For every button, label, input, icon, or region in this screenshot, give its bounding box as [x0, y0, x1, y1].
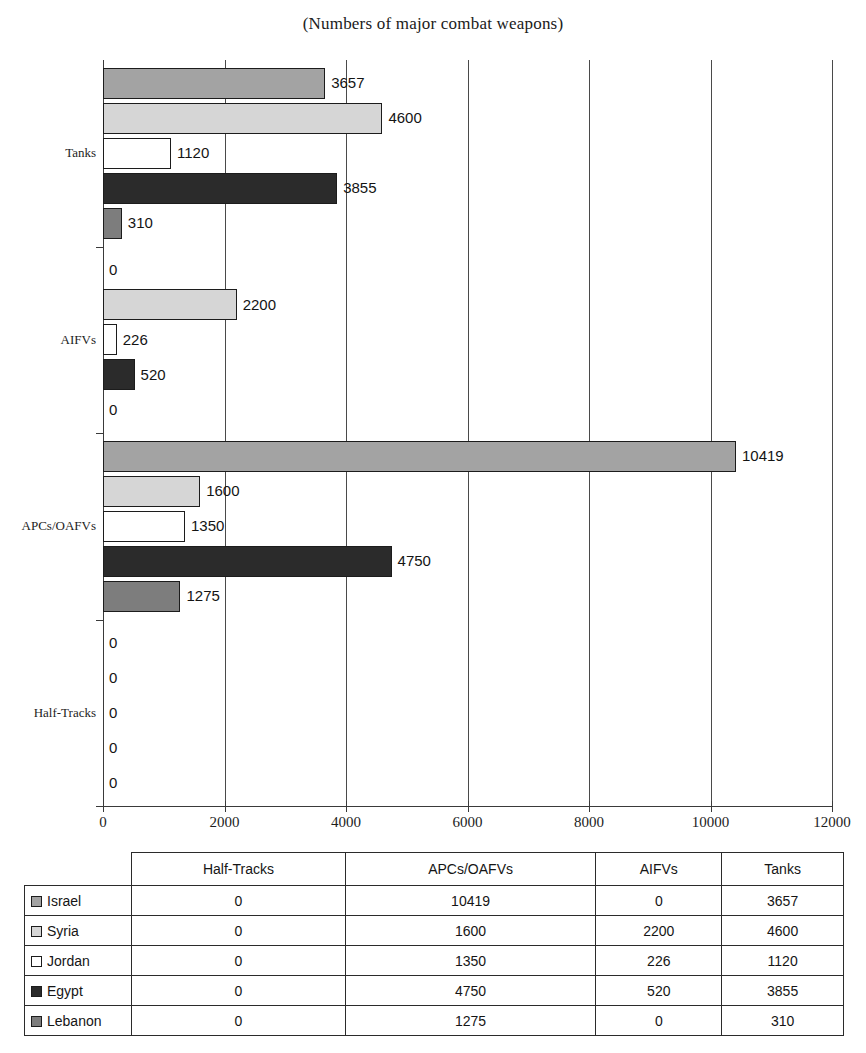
bar-value-label: 2200: [243, 297, 276, 312]
table-cell: 1350: [345, 946, 596, 976]
bar-value-label: 4600: [388, 110, 421, 125]
table-body: Israel01041903657Syria0160022004600Jorda…: [25, 886, 844, 1036]
table-row: Syria0160022004600: [25, 916, 844, 946]
bar-value-label: 0: [109, 705, 117, 720]
gridline: [346, 60, 347, 806]
x-axis-tick-label: 0: [99, 814, 107, 831]
category-label-apcs-oafvs: APCs/OAFVs: [0, 518, 96, 534]
table-cell: 10419: [345, 886, 596, 916]
bar-value-label: 0: [109, 635, 117, 650]
bar: [103, 324, 117, 355]
table-row: Israel01041903657: [25, 886, 844, 916]
table-legend-cell: Syria: [25, 916, 132, 946]
legend-series-label: Israel: [47, 893, 81, 909]
data-table: Half-TracksAPCs/OAFVsAIFVsTanks Israel01…: [24, 852, 844, 1036]
bar-value-label: 1275: [186, 588, 219, 603]
x-axis-tick-label: 6000: [453, 814, 483, 831]
x-axis-tick-label: 10000: [692, 814, 730, 831]
bar-value-label: 0: [109, 740, 117, 755]
table-cell: 0: [132, 1006, 346, 1036]
table-row: Jordan013502261120: [25, 946, 844, 976]
bar-value-label: 520: [141, 367, 166, 382]
bar: [103, 208, 122, 239]
category-label-half-tracks: Half-Tracks: [0, 705, 96, 721]
y-axis-group-separator: [96, 806, 104, 807]
chart-title: (Numbers of major combat weapons): [0, 14, 866, 34]
table-cell: 0: [596, 886, 722, 916]
bar: [103, 103, 382, 134]
legend-swatch-icon: [31, 956, 42, 967]
x-axis-tick: [225, 801, 226, 812]
x-axis-tick: [346, 801, 347, 812]
table-cell: 0: [132, 886, 346, 916]
bar: [103, 289, 237, 320]
table-legend-cell: Lebanon: [25, 1006, 132, 1036]
y-axis-group-separator: [96, 247, 104, 248]
table-cell: 4750: [345, 976, 596, 1006]
bar-value-label: 3855: [343, 180, 376, 195]
bar-value-label: 0: [109, 775, 117, 790]
gridline: [832, 60, 833, 806]
table-legend-cell: Jordan: [25, 946, 132, 976]
table-corner-cell: [25, 853, 132, 886]
bar-value-label: 0: [109, 402, 117, 417]
table-column-header: Tanks: [722, 853, 844, 886]
legend-swatch-icon: [31, 896, 42, 907]
legend-swatch-icon: [31, 1016, 42, 1027]
legend-swatch-icon: [31, 926, 42, 937]
bar-value-label: 10419: [742, 448, 784, 463]
bar: [103, 173, 337, 204]
bar: [103, 359, 135, 390]
x-axis-tick-label: 4000: [331, 814, 361, 831]
table-cell: 0: [132, 916, 346, 946]
table-cell: 2200: [596, 916, 722, 946]
bar-value-label: 4750: [398, 553, 431, 568]
bar: [103, 476, 200, 507]
table-column-header: Half-Tracks: [132, 853, 346, 886]
gridline: [711, 60, 712, 806]
bar: [103, 511, 185, 542]
table-column-header: AIFVs: [596, 853, 722, 886]
bar-value-label: 0: [109, 262, 117, 277]
legend-series-label: Jordan: [47, 953, 90, 969]
bar-value-label: 226: [123, 332, 148, 347]
y-axis-group-separator: [96, 620, 104, 621]
legend-series-label: Lebanon: [47, 1013, 102, 1029]
x-axis-tick-label: 8000: [574, 814, 604, 831]
legend-series-label: Egypt: [47, 983, 83, 999]
bar: [103, 546, 392, 577]
gridline: [589, 60, 590, 806]
table-cell: 520: [596, 976, 722, 1006]
table-row: Egypt047505203855: [25, 976, 844, 1006]
table-legend-cell: Egypt: [25, 976, 132, 1006]
table-cell: 0: [596, 1006, 722, 1036]
x-axis-tick: [711, 801, 712, 812]
bar-value-label: 0: [109, 670, 117, 685]
table-cell: 1120: [722, 946, 844, 976]
table-cell: 0: [132, 946, 346, 976]
x-axis-tick: [468, 801, 469, 812]
y-axis-group-separator: [96, 433, 104, 434]
bar: [103, 441, 736, 472]
x-axis-tick-label: 2000: [210, 814, 240, 831]
table-row: Lebanon012750310: [25, 1006, 844, 1036]
table-cell: 1600: [345, 916, 596, 946]
table-cell: 226: [596, 946, 722, 976]
table-cell: 0: [132, 976, 346, 1006]
table-column-header: APCs/OAFVs: [345, 853, 596, 886]
x-axis-tick-label: 12000: [813, 814, 851, 831]
bar-value-label: 1600: [206, 483, 239, 498]
bar-value-label: 3657: [331, 75, 364, 90]
table-header-row: Half-TracksAPCs/OAFVsAIFVsTanks: [25, 853, 844, 886]
table-cell: 1275: [345, 1006, 596, 1036]
legend-swatch-icon: [31, 986, 42, 997]
legend-series-label: Syria: [47, 923, 79, 939]
table-cell: 3657: [722, 886, 844, 916]
bar: [103, 68, 325, 99]
table-cell: 310: [722, 1006, 844, 1036]
category-label-tanks: Tanks: [0, 145, 96, 161]
bar-value-label: 1120: [177, 145, 209, 160]
bar-value-label: 1350: [191, 518, 224, 533]
x-axis-tick: [589, 801, 590, 812]
category-label-aifvs: AIFVs: [0, 332, 96, 348]
